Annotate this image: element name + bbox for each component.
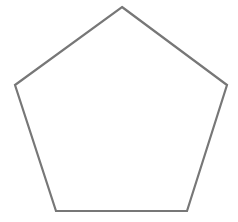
- pentagon-figure: [0, 0, 238, 222]
- pentagon-shape: [15, 7, 227, 211]
- diagram-canvas: [0, 0, 238, 222]
